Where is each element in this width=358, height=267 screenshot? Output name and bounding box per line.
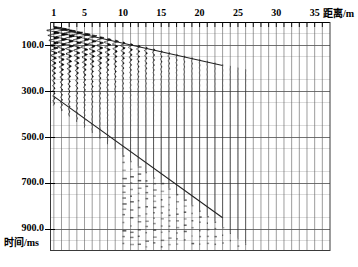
plot-canvas (0, 0, 358, 267)
y-tick-label-500: 500.0 (2, 132, 44, 142)
x-axis-title: 距离/m (323, 9, 354, 19)
x-tick-label-20: 20 (195, 8, 205, 18)
x-tick-label-5: 5 (82, 8, 87, 18)
x-tick-label-10: 10 (118, 8, 128, 18)
y-tick-label-900: 900.0 (2, 223, 44, 233)
y-axis-title: 时间/ms (4, 238, 39, 248)
y-tick-label-700: 700.0 (2, 177, 44, 187)
x-tick-label-1: 1 (51, 8, 56, 18)
x-tick-label-25: 25 (233, 8, 243, 18)
x-tick-label-15: 15 (156, 8, 166, 18)
x-tick-label-30: 30 (271, 8, 281, 18)
y-tick-label-100: 100.0 (2, 40, 44, 50)
seismic-record-figure: 15101520253035 100.0300.0500.0700.0900.0… (0, 0, 358, 267)
x-tick-label-35: 35 (310, 8, 320, 18)
y-tick-label-300: 300.0 (2, 86, 44, 96)
